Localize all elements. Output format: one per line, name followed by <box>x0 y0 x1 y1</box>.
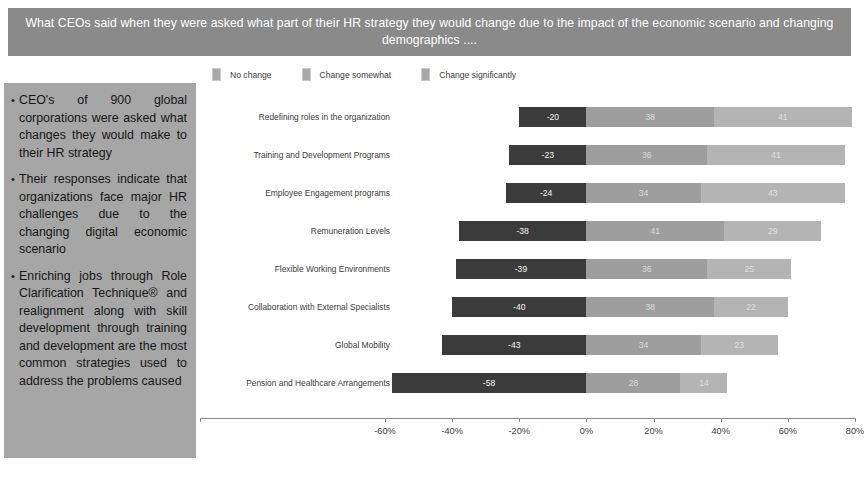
axis-tick-label: -40% <box>441 426 462 436</box>
plot-area: Redefining roles in the organization-203… <box>200 98 855 418</box>
legend-label: Change somewhat <box>320 70 392 80</box>
segment-value: 36 <box>642 150 652 160</box>
legend-swatch-icon <box>212 68 221 81</box>
bullet-icon: • <box>11 268 19 286</box>
bar-segment-change-significantly: 14 <box>680 373 727 393</box>
chart-row: Training and Development Programs-233641 <box>200 136 855 174</box>
legend-item-no-change: No change <box>212 68 272 81</box>
segment-value: 36 <box>642 264 652 274</box>
segment-value: -23 <box>542 150 554 160</box>
segment-value: 14 <box>699 378 709 388</box>
bar-segment-no-change: -58 <box>392 373 587 393</box>
segment-value: -20 <box>547 112 559 122</box>
segment-value: 25 <box>744 264 754 274</box>
bar-segment-change-significantly: 41 <box>714 107 852 127</box>
segment-value: -38 <box>516 226 528 236</box>
axis-tick <box>452 418 453 422</box>
bullet-icon: • <box>11 171 19 189</box>
bar-segment-no-change: -38 <box>459 221 587 241</box>
bar-segment-no-change: -39 <box>456 259 587 279</box>
bullet-icon: • <box>11 92 19 110</box>
legend-swatch-icon <box>302 68 311 81</box>
segment-value: 41 <box>771 150 781 160</box>
chart-row: Remuneration Levels-384129 <box>200 212 855 250</box>
axis-tick <box>855 418 856 422</box>
bar-segment-change-somewhat: 36 <box>586 145 707 165</box>
segment-value: 28 <box>629 378 639 388</box>
legend-label: No change <box>230 70 272 80</box>
axis-tick-label: 80% <box>846 426 864 436</box>
bar-track: -403822 <box>200 288 855 326</box>
bar-track: -243443 <box>200 174 855 212</box>
bar-segment-no-change: -20 <box>519 107 586 127</box>
chart-row: Flexible Working Environments-393625 <box>200 250 855 288</box>
axis-tick <box>721 418 722 422</box>
stacked-bar-chart: No change Change somewhat Change signifi… <box>200 60 855 460</box>
chart-row: Pension and Healthcare Arrangements-5828… <box>200 364 855 402</box>
axis-tick <box>788 418 789 422</box>
chart-legend: No change Change somewhat Change signifi… <box>212 68 546 81</box>
legend-item-change-significantly: Change significantly <box>421 68 516 81</box>
bar-segment-change-somewhat: 34 <box>586 335 700 355</box>
segment-value: 41 <box>650 226 660 236</box>
axis-tick-label: -60% <box>374 426 395 436</box>
bar-segment-change-significantly: 23 <box>701 335 778 355</box>
page-title: What CEOs said when they were asked what… <box>22 15 837 49</box>
segment-value: 23 <box>734 340 744 350</box>
segment-value: 43 <box>768 188 778 198</box>
segment-value: 38 <box>645 302 655 312</box>
chart-row: Global Mobility-433423 <box>200 326 855 364</box>
x-axis: -60%-40%-20%0%20%40%60%80% <box>200 418 855 454</box>
segment-value: -43 <box>508 340 520 350</box>
bar-segment-change-significantly: 25 <box>707 259 791 279</box>
axis-tick <box>519 418 520 422</box>
segment-value: -24 <box>540 188 552 198</box>
bar-segment-change-significantly: 43 <box>701 183 845 203</box>
bar-segment-change-somewhat: 41 <box>586 221 724 241</box>
segment-value: 29 <box>768 226 778 236</box>
legend-swatch-icon <box>421 68 430 81</box>
bar-track: -203841 <box>200 98 855 136</box>
bar-segment-change-significantly: 41 <box>707 145 845 165</box>
segment-value: 22 <box>746 302 756 312</box>
bar-track: -393625 <box>200 250 855 288</box>
bar-segment-no-change: -24 <box>506 183 587 203</box>
segment-value: -39 <box>515 264 527 274</box>
bar-segment-no-change: -43 <box>442 335 586 355</box>
axis-tick-label: -20% <box>509 426 530 436</box>
bar-track: -233641 <box>200 136 855 174</box>
bar-segment-no-change: -40 <box>452 297 586 317</box>
axis-tick <box>654 418 655 422</box>
title-banner: What CEOs said when they were asked what… <box>8 8 851 56</box>
chart-row: Employee Engagement programs-243443 <box>200 174 855 212</box>
bar-segment-change-somewhat: 28 <box>586 373 680 393</box>
bar-segment-change-somewhat: 36 <box>586 259 707 279</box>
axis-tick-label: 40% <box>712 426 730 436</box>
chart-row: Collaboration with External Specialists-… <box>200 288 855 326</box>
segment-value: 34 <box>639 340 649 350</box>
segment-value: 38 <box>645 112 655 122</box>
segment-value: -58 <box>483 378 495 388</box>
axis-tick-label: 20% <box>644 426 662 436</box>
legend-label: Change significantly <box>439 70 516 80</box>
bar-segment-change-somewhat: 38 <box>586 297 714 317</box>
bar-track: -582814 <box>200 364 855 402</box>
axis-tick <box>385 418 386 422</box>
bar-track: -433423 <box>200 326 855 364</box>
bar-segment-change-significantly: 22 <box>714 297 788 317</box>
axis-tick-label: 0% <box>580 426 593 436</box>
axis-tick-label: 60% <box>779 426 797 436</box>
bar-segment-change-significantly: 29 <box>724 221 821 241</box>
bar-segment-change-somewhat: 34 <box>586 183 700 203</box>
segment-value: 41 <box>778 112 788 122</box>
bar-segment-no-change: -23 <box>509 145 586 165</box>
axis-tick <box>586 418 587 422</box>
axis-line <box>200 418 855 419</box>
chart-row: Redefining roles in the organization-203… <box>200 98 855 136</box>
bar-track: -384129 <box>200 212 855 250</box>
bar-segment-change-somewhat: 38 <box>586 107 714 127</box>
segment-value: -40 <box>513 302 525 312</box>
legend-item-change-somewhat: Change somewhat <box>302 68 392 81</box>
segment-value: 34 <box>639 188 649 198</box>
